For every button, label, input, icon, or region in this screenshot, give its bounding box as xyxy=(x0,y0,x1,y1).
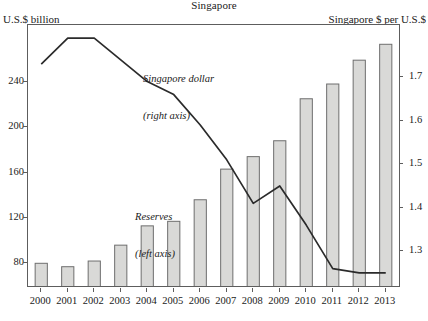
bar-2012 xyxy=(353,60,365,286)
xtick-label-2010: 2010 xyxy=(290,296,320,307)
xtickmark-2007 xyxy=(226,288,227,292)
bar-2003 xyxy=(115,245,127,286)
xtick-label-2004: 2004 xyxy=(131,296,161,307)
ytick-label-right-1.5: 1.5 xyxy=(409,158,422,169)
xtickmark-2004 xyxy=(146,288,147,292)
annotation-bar-name: Reserves xyxy=(135,211,175,223)
annotation-line-name: Singapore dollar xyxy=(143,73,214,85)
xtickmark-2005 xyxy=(173,288,174,292)
xtick-label-2002: 2002 xyxy=(78,296,108,307)
ytick-label-left-200: 200 xyxy=(0,121,24,132)
ytick-label-left-160: 160 xyxy=(0,167,24,178)
bar-2009 xyxy=(274,141,286,286)
bar-2000 xyxy=(35,263,47,286)
xtick-label-2001: 2001 xyxy=(52,296,82,307)
bar-2002 xyxy=(88,261,100,286)
bar-2001 xyxy=(62,267,74,286)
chart-container: Singapore U.S.$ billion Singapore $ per … xyxy=(0,0,428,321)
ytick-label-right-1.6: 1.6 xyxy=(409,115,422,126)
ytick-label-left-80: 80 xyxy=(0,257,24,268)
bar-2010 xyxy=(300,99,312,286)
ytick-label-left-240: 240 xyxy=(0,76,24,87)
annotation-bar-axis: (left axis) xyxy=(135,248,175,260)
ytick-label-right-1.3: 1.3 xyxy=(409,245,422,256)
xtickmark-2010 xyxy=(305,288,306,292)
bar-2008 xyxy=(247,157,259,286)
xtick-label-2008: 2008 xyxy=(237,296,267,307)
xtick-label-2006: 2006 xyxy=(184,296,214,307)
xtickmark-2012 xyxy=(358,288,359,292)
xtickmark-2008 xyxy=(252,288,253,292)
xtickmark-2002 xyxy=(93,288,94,292)
xtickmark-2013 xyxy=(385,288,386,292)
ytick-label-right-1.7: 1.7 xyxy=(409,71,422,82)
xtick-label-2013: 2013 xyxy=(370,296,400,307)
annotation-singapore-dollar: Singapore dollar (right axis) xyxy=(143,48,214,147)
ytick-label-left-120: 120 xyxy=(0,212,24,223)
chart-title: Singapore xyxy=(0,0,428,11)
ytick-label-right-1.4: 1.4 xyxy=(409,202,422,213)
bar-2007 xyxy=(221,169,233,286)
xtick-label-2007: 2007 xyxy=(211,296,241,307)
xtickmark-2006 xyxy=(199,288,200,292)
bar-2011 xyxy=(327,84,339,286)
xtick-label-2005: 2005 xyxy=(158,296,188,307)
xtickmark-2000 xyxy=(40,288,41,292)
xtick-label-2012: 2012 xyxy=(343,296,373,307)
xtickmark-2001 xyxy=(67,288,68,292)
annotation-line-axis: (right axis) xyxy=(143,110,214,122)
annotation-reserves: Reserves (left axis) xyxy=(135,186,175,285)
xtickmark-2009 xyxy=(279,288,280,292)
xtickmark-2003 xyxy=(120,288,121,292)
xtick-label-2009: 2009 xyxy=(264,296,294,307)
xtick-label-2000: 2000 xyxy=(25,296,55,307)
xtick-label-2011: 2011 xyxy=(317,296,347,307)
bar-2006 xyxy=(194,200,206,286)
xtick-label-2003: 2003 xyxy=(105,296,135,307)
bar-2013 xyxy=(380,44,392,286)
xtickmark-2011 xyxy=(332,288,333,292)
